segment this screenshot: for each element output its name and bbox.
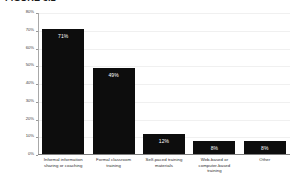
x-tick-label: Other [242, 157, 288, 163]
y-axis-tick: 0% [2, 155, 38, 156]
y-tick-label: 0% [28, 151, 34, 156]
bar-slot: 49% [93, 13, 135, 155]
y-tick-label: 60% [26, 45, 34, 50]
y-axis-tick: 80% [2, 13, 38, 14]
x-tick-label: Informal informationsharing or coaching [40, 157, 86, 168]
bar[interactable]: 8% [244, 141, 286, 155]
y-axis-tick: 60% [2, 49, 38, 50]
bar-slot: 8% [244, 13, 286, 155]
bar-value-label: 71% [42, 33, 84, 39]
bar-value-label: 8% [244, 145, 286, 151]
bar-value-label: 12% [143, 138, 185, 144]
bar[interactable]: 8% [193, 141, 235, 155]
y-axis-tick: 70% [2, 31, 38, 32]
x-axis-labels: Informal informationsharing or coachingF… [38, 157, 290, 183]
y-tick-label: 10% [26, 133, 34, 138]
y-axis-tick: 20% [2, 120, 38, 121]
bar-series: 71%49%12%8%8% [38, 13, 290, 155]
bar[interactable]: 12% [143, 134, 185, 155]
bar-value-label: 49% [93, 72, 135, 78]
y-tick-label: 50% [26, 62, 34, 67]
x-tick-label: Self-paced trainingmaterials [141, 157, 187, 168]
y-tick-label: 30% [26, 98, 34, 103]
y-tick-label: 80% [26, 9, 34, 14]
y-axis-tick: 50% [2, 66, 38, 67]
bar[interactable]: 71% [42, 29, 84, 155]
y-axis-tick: 30% [2, 102, 38, 103]
bar-value-label: 8% [193, 145, 235, 151]
bar[interactable]: 49% [93, 68, 135, 155]
plot-area: 0%10%20%30%40%50%60%70%80% 71%49%12%8%8% [38, 13, 290, 155]
y-tick-mark [36, 155, 38, 156]
x-axis-line [38, 154, 290, 155]
y-axis-tick: 10% [2, 137, 38, 138]
y-tick-label: 20% [26, 116, 34, 121]
y-tick-label: 40% [26, 80, 34, 85]
bar-slot: 12% [143, 13, 185, 155]
x-tick-label: Web-based orcomputer-basedtraining [191, 157, 237, 174]
x-tick-label: Formal classroomtraining [90, 157, 136, 168]
bar-slot: 8% [193, 13, 235, 155]
y-axis-tick: 40% [2, 84, 38, 85]
chart-title: FIGURE 5.2 [5, 0, 125, 3]
y-tick-label: 70% [26, 27, 34, 32]
bar-slot: 71% [42, 13, 84, 155]
chart-figure: FIGURE 5.2 Percent of respondents 0%10%2… [0, 0, 299, 183]
